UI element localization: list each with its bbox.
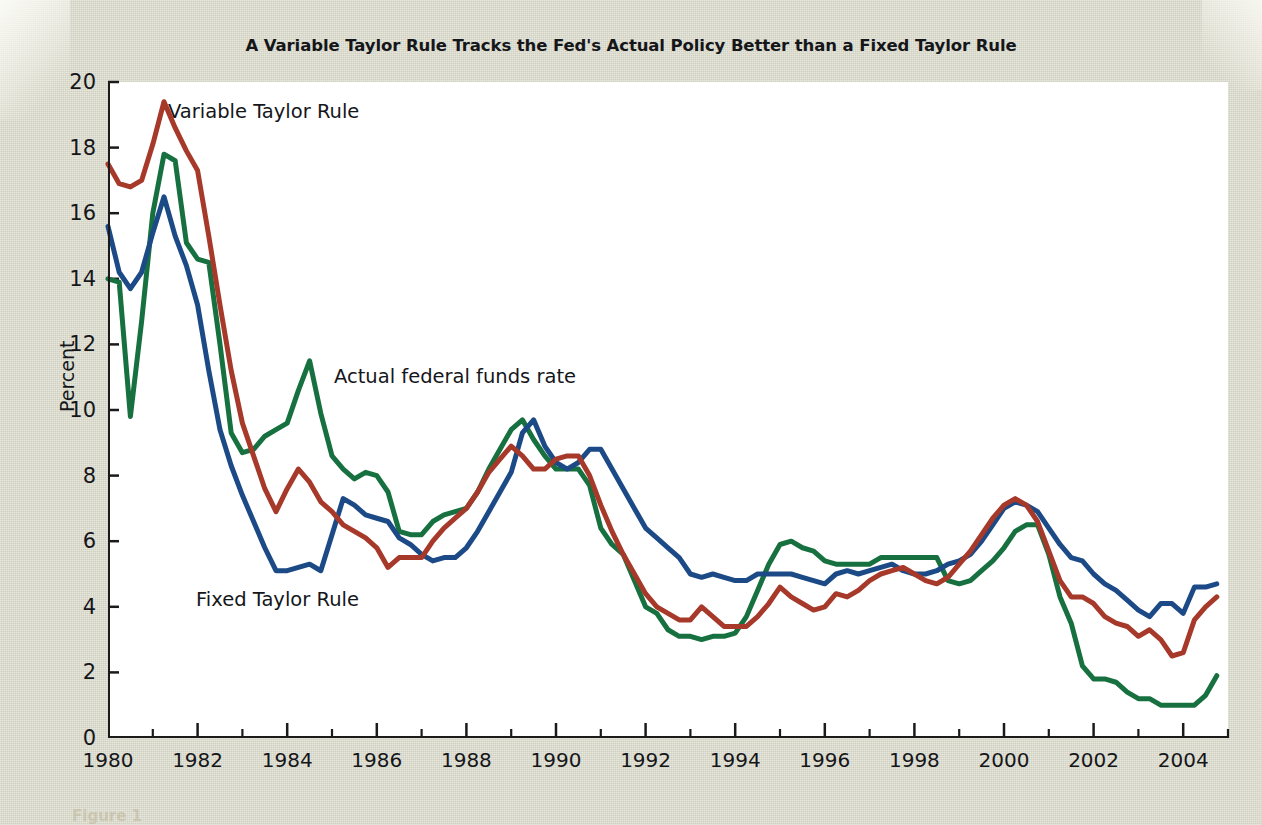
figure-canvas: A Variable Taylor Rule Tracks the Fed's … bbox=[0, 0, 1262, 825]
variable-taylor-rule-label: Variable Taylor Rule bbox=[168, 100, 359, 123]
y-tick-label: 2 bbox=[83, 660, 96, 684]
plot-area: Percent 02468101214161820 19801982198419… bbox=[108, 82, 1228, 738]
x-tick-label: 2000 bbox=[979, 748, 1030, 772]
y-tick-label: 0 bbox=[83, 726, 96, 750]
y-tick-label: 6 bbox=[83, 529, 96, 553]
x-tick-label: 1992 bbox=[620, 748, 671, 772]
x-tick-label: 1980 bbox=[83, 748, 134, 772]
x-tick-label: 1984 bbox=[262, 748, 313, 772]
x-tick-label: 1986 bbox=[351, 748, 402, 772]
x-tick-label: 2002 bbox=[1068, 748, 1119, 772]
series-line-actual-federal-funds-rate bbox=[108, 154, 1217, 705]
x-tick-label: 1988 bbox=[441, 748, 492, 772]
y-tick-label: 18 bbox=[69, 136, 96, 160]
x-tick-label: 2004 bbox=[1158, 748, 1209, 772]
x-tick-label: 1996 bbox=[799, 748, 850, 772]
page-edge-highlight-left bbox=[0, 0, 70, 120]
x-tick-label: 1990 bbox=[531, 748, 582, 772]
x-tick-label: 1994 bbox=[710, 748, 761, 772]
y-tick-label: 8 bbox=[83, 464, 96, 488]
y-tick-label: 16 bbox=[69, 201, 96, 225]
chart-title: A Variable Taylor Rule Tracks the Fed's … bbox=[0, 36, 1262, 55]
bottom-caption: Figure 1 bbox=[72, 807, 142, 825]
y-tick-label: 14 bbox=[69, 267, 96, 291]
y-tick-label: 12 bbox=[69, 332, 96, 356]
y-tick-label: 20 bbox=[69, 70, 96, 94]
actual-federal-funds-rate-label: Actual federal funds rate bbox=[334, 365, 576, 388]
fixed-taylor-rule-label: Fixed Taylor Rule bbox=[196, 588, 359, 611]
series-line-variable-taylor-rule bbox=[108, 102, 1217, 656]
chart-lines bbox=[108, 82, 1228, 738]
x-tick-label: 1998 bbox=[889, 748, 940, 772]
x-tick-label: 1982 bbox=[172, 748, 223, 772]
y-tick-label: 4 bbox=[83, 595, 96, 619]
y-tick-label: 10 bbox=[69, 398, 96, 422]
